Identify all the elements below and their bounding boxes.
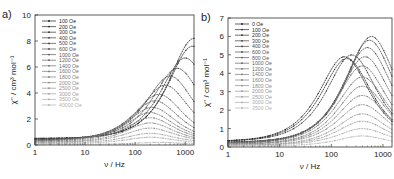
- data-point: [170, 99, 171, 100]
- data-point: [185, 73, 186, 74]
- data-point: [178, 122, 179, 123]
- data-point: [122, 124, 123, 125]
- data-point: [82, 141, 83, 142]
- y-tick-label: 8: [27, 37, 32, 46]
- data-point: [185, 89, 186, 90]
- data-point: [350, 130, 351, 131]
- data-point: [285, 129, 286, 130]
- data-point: [130, 132, 131, 133]
- data-point: [146, 123, 147, 124]
- data-point: [138, 129, 139, 130]
- data-point: [170, 142, 171, 143]
- data-point: [154, 142, 155, 143]
- data-point: [301, 136, 302, 137]
- data-point: [383, 111, 384, 112]
- data-point: [383, 117, 384, 118]
- x-tick-label: 1000: [176, 148, 194, 157]
- data-point: [342, 95, 343, 96]
- data-point: [301, 142, 302, 143]
- data-point: [122, 140, 123, 141]
- data-point: [359, 104, 360, 105]
- data-point: [383, 57, 384, 58]
- y-axis-label: χ'' / cm³ mol⁻¹: [9, 55, 18, 104]
- data-point: [260, 141, 261, 142]
- data-point: [162, 85, 163, 86]
- legend-marker: [241, 79, 243, 81]
- data-point: [293, 136, 294, 137]
- data-point: [309, 132, 310, 133]
- data-point: [90, 137, 91, 138]
- data-point: [334, 113, 335, 114]
- data-point: [350, 100, 351, 101]
- data-point: [122, 134, 123, 135]
- data-point: [130, 122, 131, 123]
- data-point: [375, 110, 376, 111]
- data-point: [244, 139, 245, 140]
- legend-marker: [241, 68, 243, 70]
- x-tick-label: 100: [128, 148, 142, 157]
- x-axis-label: ν / Hz: [104, 160, 124, 169]
- data-point: [146, 103, 147, 104]
- data-point: [138, 134, 139, 135]
- data-point: [178, 60, 179, 61]
- data-point: [383, 98, 384, 99]
- data-point: [383, 124, 384, 125]
- data-point: [138, 142, 139, 143]
- data-point: [293, 140, 294, 141]
- data-point: [334, 132, 335, 133]
- data-point: [138, 116, 139, 117]
- data-point: [114, 139, 115, 140]
- data-point: [114, 130, 115, 131]
- y-tick-label: 0: [220, 143, 225, 152]
- data-point: [334, 136, 335, 137]
- data-point: [359, 53, 360, 54]
- data-point: [154, 128, 155, 129]
- data-point: [170, 79, 171, 80]
- legend-label: 40000 Oe: [59, 102, 82, 108]
- data-point: [138, 120, 139, 121]
- data-point: [170, 71, 171, 72]
- data-point: [162, 94, 163, 95]
- legend-marker: [48, 82, 50, 84]
- x-tick-label: 1: [33, 148, 38, 157]
- data-point: [293, 143, 294, 144]
- data-point: [383, 68, 384, 69]
- data-point: [185, 136, 186, 137]
- data-point: [170, 108, 171, 109]
- data-point: [318, 128, 319, 129]
- y-tick-label: 2: [220, 106, 225, 115]
- data-point: [162, 110, 163, 111]
- data-point: [359, 86, 360, 87]
- data-point: [367, 105, 368, 106]
- legend-marker: [48, 37, 50, 39]
- data-point: [301, 116, 302, 117]
- y-tick-label: 7: [220, 14, 225, 23]
- data-point: [138, 137, 139, 138]
- data-point: [178, 134, 179, 135]
- data-point: [350, 92, 351, 93]
- data-point: [367, 84, 368, 85]
- data-point: [170, 116, 171, 117]
- y-tick-label: 4: [220, 69, 225, 78]
- data-point: [185, 130, 186, 131]
- data-point: [326, 128, 327, 129]
- data-point: [185, 135, 186, 136]
- data-point: [146, 107, 147, 108]
- data-point: [318, 138, 319, 139]
- data-point: [309, 141, 310, 142]
- data-point: [106, 141, 107, 142]
- y-tick-label: 2: [27, 115, 32, 124]
- data-point: [367, 72, 368, 73]
- data-point: [178, 126, 179, 127]
- data-point: [114, 132, 115, 133]
- data-point: [146, 128, 147, 129]
- data-point: [359, 72, 360, 73]
- legend-marker: [241, 57, 243, 59]
- data-point: [106, 133, 107, 134]
- data-point: [90, 138, 91, 139]
- data-point: [367, 38, 368, 39]
- data-point: [334, 140, 335, 141]
- data-point: [252, 139, 253, 140]
- legend-marker: [241, 34, 243, 36]
- data-point: [154, 133, 155, 134]
